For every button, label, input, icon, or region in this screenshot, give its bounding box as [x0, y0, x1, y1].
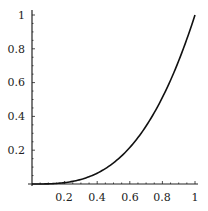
y-tick-label: 0.8: [8, 43, 26, 56]
x-tick-labels: 0.2 0.4 0.6 0.8 1: [55, 191, 198, 204]
y-tick-label: 0.6: [8, 76, 26, 89]
y-tick-labels: 0.2 0.4 0.6 0.8 1: [8, 9, 26, 157]
data-line: [32, 15, 195, 184]
x-tick-label: 0.8: [153, 191, 171, 204]
chart: 0.2 0.4 0.6 0.8 1 0.2 0.4 0.6 0.8 1: [0, 0, 208, 211]
y-tick-label: 0.4: [8, 110, 26, 123]
y-tick-label: 0.2: [8, 144, 26, 157]
x-tick-label: 0.6: [121, 191, 139, 204]
x-tick-label: 1: [192, 191, 199, 204]
y-tick-label: 1: [18, 9, 25, 22]
x-tick-label: 0.2: [55, 191, 73, 204]
axis-ticks: [32, 15, 195, 184]
x-tick-label: 0.4: [88, 191, 106, 204]
